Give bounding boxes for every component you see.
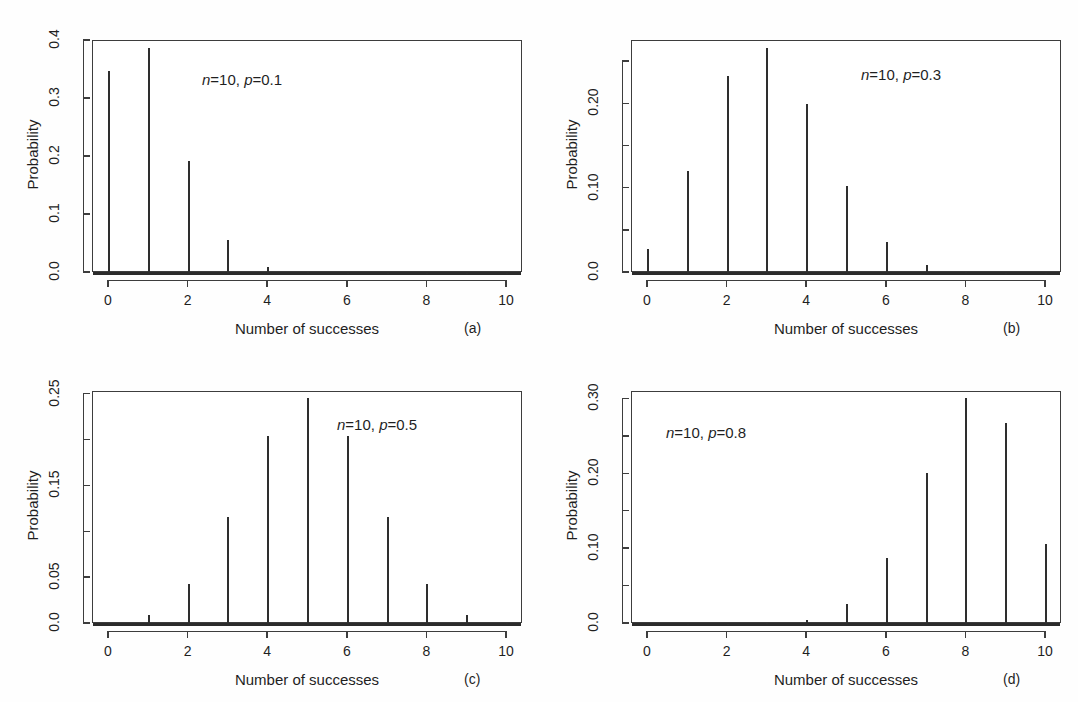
x-axis-tick-label: 0 (643, 643, 651, 659)
panel-letter-b: (b) (1003, 320, 1020, 336)
x-axis-tick-label: 8 (423, 292, 431, 308)
y-axis-title-a: Probability (24, 75, 41, 235)
pmf-spike (766, 623, 768, 624)
x-axis-tick (187, 280, 188, 287)
annotation-value: =0.5 (387, 416, 417, 433)
y-axis-tick-label: 0.0 (46, 247, 62, 295)
x-axis-tick (726, 280, 727, 287)
pmf-spike (926, 265, 928, 273)
pmf-spike (227, 240, 229, 273)
x-axis-tick (107, 631, 108, 638)
y-axis-tick-label: 0.25 (46, 369, 62, 417)
x-axis-tick-label: 2 (184, 292, 192, 308)
y-axis-tick-label: 0.1 (46, 189, 62, 237)
y-axis-tick (83, 271, 90, 272)
x-axis-tick-label: 4 (263, 292, 271, 308)
x-axis-tick-label: 4 (802, 292, 810, 308)
x-axis-title-c: Number of successes (235, 671, 379, 688)
pmf-spike (886, 242, 888, 273)
pmf-spike (965, 398, 967, 624)
plot-box-b (631, 40, 1061, 272)
annotation-value: =0.3 (911, 66, 941, 83)
x-axis-tick (965, 631, 966, 638)
plot-box-a (92, 40, 522, 272)
data-surface-a (93, 41, 521, 271)
annotation-a: n=10, p=0.1 (202, 71, 282, 88)
x-axis-tick-label: 8 (423, 643, 431, 659)
panel-c: 0.00.050.150.25 0246810 Probability Numb… (0, 351, 539, 702)
pmf-spike (466, 615, 468, 624)
x-axis-tick (346, 631, 347, 638)
panel-letter-c: (c) (464, 671, 480, 687)
x-axis-tick-label: 0 (104, 292, 112, 308)
pmf-spike (1005, 273, 1007, 274)
y-axis-tick-label: 0.20 (585, 448, 601, 496)
x-axis-tick-label: 10 (1037, 292, 1053, 308)
y-axis-tick (622, 187, 629, 188)
x-axis-tick-label: 8 (962, 643, 970, 659)
annotation-value: =10, (345, 416, 379, 433)
y-axis-tick (622, 103, 629, 104)
y-axis-tick-label: 0.10 (585, 163, 601, 211)
y-axis-tick (622, 271, 629, 272)
y-axis-tick (83, 155, 90, 156)
annotation-value: =10, (210, 71, 244, 88)
pmf-spike (1045, 273, 1047, 274)
y-axis-tick-label: 0.05 (46, 552, 62, 600)
pmf-spike (687, 171, 689, 273)
pmf-spike (188, 161, 190, 273)
y-axis-tick (83, 393, 90, 394)
pmf-spike (806, 104, 808, 273)
pmf-spike (267, 436, 269, 624)
pmf-spike (148, 48, 150, 273)
x-axis-tick (726, 631, 727, 638)
x-axis-line (108, 280, 506, 281)
y-axis-title-c: Probability (24, 426, 41, 586)
panel-a: 0.00.10.20.30.4 0246810 Probability Numb… (0, 0, 539, 351)
x-axis-tick-label: 10 (498, 292, 514, 308)
x-axis-title-b: Number of successes (774, 320, 918, 337)
y-axis-line (622, 61, 623, 272)
y-axis-tick-label: 0.0 (585, 598, 601, 646)
x-axis-tick (187, 631, 188, 638)
x-axis-tick-label: 2 (184, 643, 192, 659)
annotation-value: =10, (674, 424, 708, 441)
x-axis-tick (885, 631, 886, 638)
x-axis-line (108, 631, 506, 632)
y-axis-tick-label: 0.15 (46, 460, 62, 508)
y-axis-tick (83, 576, 90, 577)
y-axis-tick-label: 0.20 (585, 78, 601, 126)
pmf-spike (886, 558, 888, 624)
x-axis-tick-label: 2 (723, 643, 731, 659)
pmf-spike (506, 273, 508, 274)
x-axis-tick-label: 6 (882, 643, 890, 659)
pmf-spike (687, 624, 689, 625)
pmf-spike (108, 71, 110, 273)
annotation-value: =10, (869, 66, 903, 83)
panel-b: 0.00.100.20 0246810 Probability Number o… (539, 0, 1078, 351)
annotation-value: =0.1 (252, 71, 282, 88)
y-axis-tick (622, 229, 629, 230)
x-axis-tick-label: 2 (723, 292, 731, 308)
pmf-spike (727, 76, 729, 273)
x-axis-line (647, 631, 1045, 632)
x-axis-tick (1044, 631, 1045, 638)
pmf-spike (647, 624, 649, 625)
pmf-spike (1045, 544, 1047, 624)
pmf-spike (806, 620, 808, 624)
x-axis-title-a: Number of successes (235, 320, 379, 337)
x-axis-tick-label: 8 (962, 292, 970, 308)
pmf-spike (647, 249, 649, 273)
plot-box-c (92, 391, 522, 623)
y-axis-tick (622, 547, 629, 548)
pmf-spike (387, 517, 389, 624)
pmf-spike (506, 623, 508, 624)
pmf-spike (267, 267, 269, 273)
x-axis-tick-label: 6 (343, 643, 351, 659)
pmf-spike (387, 273, 389, 274)
y-axis-title-d: Probability (563, 426, 580, 586)
y-axis-tick-label: 0.0 (585, 247, 601, 295)
panel-letter-d: (d) (1003, 671, 1020, 687)
annotation-c: n=10, p=0.5 (337, 416, 417, 433)
y-axis-tick (622, 435, 629, 436)
